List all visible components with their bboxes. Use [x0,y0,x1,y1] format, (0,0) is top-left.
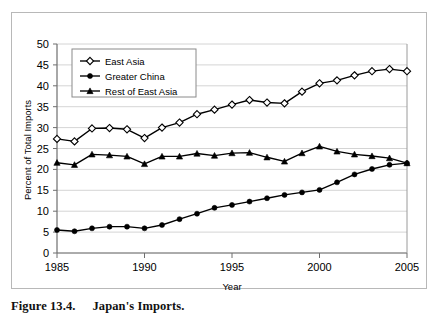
line-chart: 05101520253035404550 1985199019952000200… [0,0,441,290]
data-point-marker [370,166,375,171]
data-point-marker [298,88,305,95]
y-tick-label: 40 [37,80,49,92]
y-tick-label: 35 [37,101,49,113]
data-point-marker [55,228,60,233]
data-point-marker [300,190,305,195]
legend-label[interactable]: East Asia [105,56,145,67]
data-point-marker [247,199,252,204]
y-tick-label: 10 [37,205,49,217]
data-point-marker [333,77,340,84]
data-point-marker [158,124,165,131]
data-point-marker [386,65,393,72]
y-axis-title: Percent of Total Imports [22,100,33,200]
x-tick-label: 1995 [220,261,244,273]
x-axis-title: Year [222,281,241,290]
y-tick-labels: 05101520253035404550 [37,38,57,259]
data-point-marker [53,135,60,142]
data-point-marker [72,229,77,234]
data-point-marker [177,217,182,222]
y-tick-label: 0 [43,247,49,259]
y-tick-label: 30 [37,122,49,134]
x-tick-label: 2000 [307,261,331,273]
data-point-marker [316,143,322,149]
data-point-marker [193,111,200,118]
data-point-marker [106,124,113,131]
data-point-marker [352,172,357,177]
data-point-marker [351,72,358,79]
data-point-marker [335,180,340,185]
figure-caption: Figure 13.4.Japan's Imports. [11,299,431,314]
data-point-marker [211,106,218,113]
data-point-marker [212,205,217,210]
data-point-marker [125,224,130,229]
data-point-marker [107,224,112,229]
y-tick-label: 45 [37,59,49,71]
y-tick-label: 25 [37,143,49,155]
y-tick-label: 5 [43,226,49,238]
chart-legend[interactable]: East AsiaGreater ChinaRest of East Asia [72,49,196,97]
caption-text: Japan's Imports. [93,299,185,313]
x-tick-label: 1990 [132,261,156,273]
data-point-marker [265,196,270,201]
data-point-marker [230,202,235,207]
data-point-marker [142,226,147,231]
y-tick-label: 50 [37,38,49,50]
x-tick-label: 1985 [45,261,69,273]
data-point-marker [228,101,235,108]
x-tick-label: 2005 [395,261,419,273]
data-point-marker [123,126,130,133]
data-point-marker [246,96,253,103]
data-point-marker [387,162,392,167]
caption-label: Figure 13.4. [11,299,76,313]
x-tick-labels: 19851990199520002005 [45,253,419,273]
legend-label[interactable]: Greater China [105,71,165,82]
data-point-marker [281,100,288,107]
y-tick-label: 15 [37,184,49,196]
data-point-marker [403,68,410,75]
legend-label[interactable]: Rest of East Asia [105,86,178,97]
data-point-marker [317,187,322,192]
data-point-marker [141,134,148,141]
figure-container: 05101520253035404550 1985199019952000200… [0,0,441,326]
data-point-marker [282,192,287,197]
data-point-marker [368,68,375,75]
data-point-marker [176,119,183,126]
legend-marker [88,74,93,79]
data-point-marker [195,211,200,216]
y-tick-label: 20 [37,163,49,175]
data-point-marker [90,226,95,231]
data-point-marker [160,222,165,227]
chart-plot-area: 05101520253035404550 1985199019952000200… [0,0,441,290]
data-point-marker [263,99,270,106]
